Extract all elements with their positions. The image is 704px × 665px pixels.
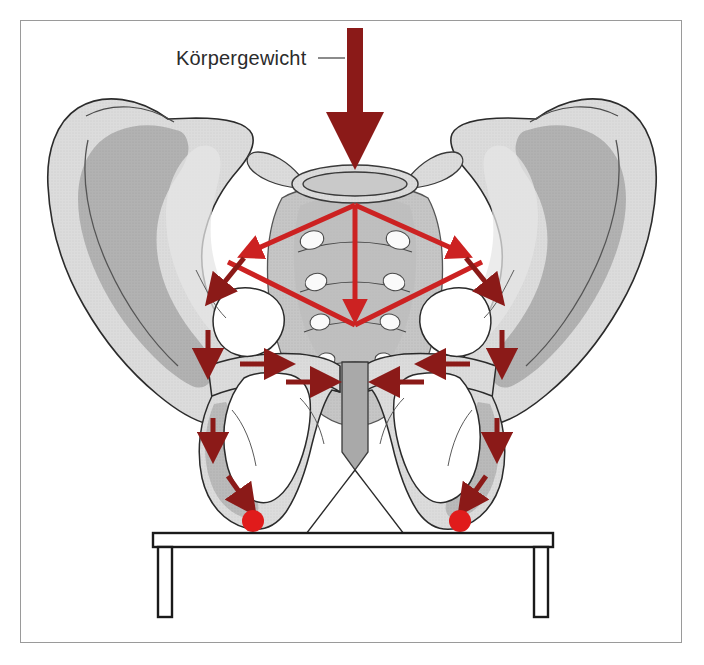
body-weight-arrow	[326, 28, 384, 170]
bench	[153, 533, 553, 617]
pelvis-illustration	[48, 99, 657, 539]
bench-top	[153, 533, 553, 547]
pelvis-force-diagram: Körpergewicht	[0, 0, 704, 665]
subpubic-arch	[306, 470, 404, 539]
bench-leg-left	[158, 547, 172, 617]
left-tuberosity-contact-dot	[242, 510, 264, 532]
body-weight-label: Körpergewicht	[176, 47, 306, 70]
illustration-canvas	[0, 0, 704, 665]
pubic-symphysis	[342, 362, 368, 470]
right-tuberosity-contact-dot	[449, 510, 471, 532]
l5-body-inner	[303, 172, 407, 196]
left-acetabulum	[213, 288, 284, 357]
right-acetabulum	[420, 288, 491, 357]
bench-leg-right	[534, 547, 548, 617]
